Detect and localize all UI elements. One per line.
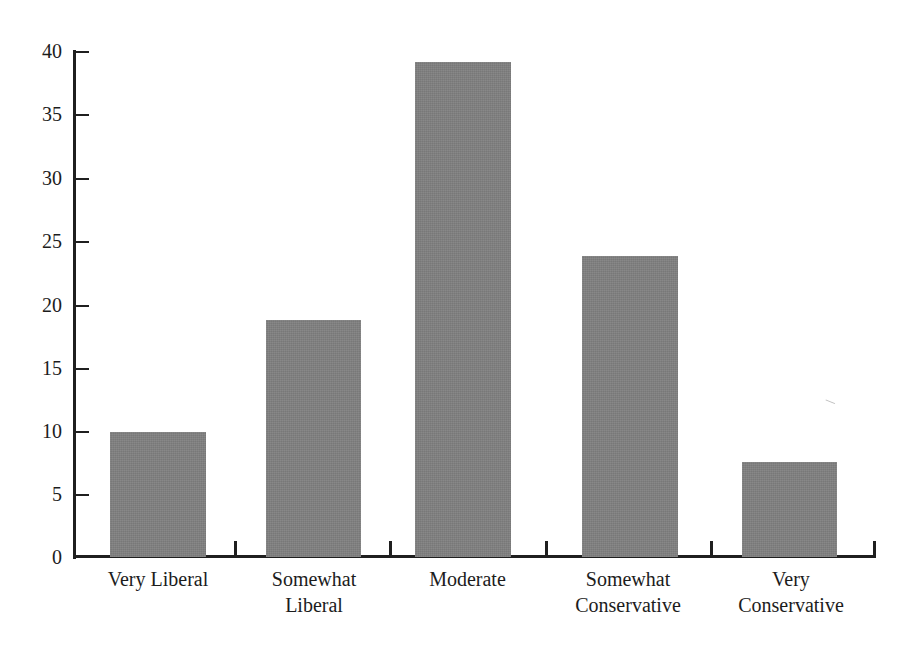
y-tick-label-30: 30 <box>16 168 62 188</box>
x-label-moderate: Moderate <box>389 566 546 592</box>
x-tick-end <box>873 541 876 556</box>
y-tick-25 <box>76 241 89 243</box>
x-label-very-conservative: Very Conservative <box>708 566 874 618</box>
y-tick-label-20: 20 <box>16 295 62 315</box>
y-tick-label-10: 10 <box>16 421 62 441</box>
x-label-line1: Somewhat <box>234 566 394 592</box>
x-label-line2: Conservative <box>708 592 874 618</box>
y-tick-label-15: 15 <box>16 358 62 378</box>
y-tick-5 <box>76 494 89 496</box>
bar-very-liberal <box>110 432 206 557</box>
bar-very-conservative <box>742 462 837 557</box>
x-label-line1: Moderate <box>389 566 546 592</box>
y-tick-label-5: 5 <box>16 484 62 504</box>
y-tick-40 <box>76 51 89 53</box>
y-tick-label-0: 0 <box>16 547 62 567</box>
bar-moderate <box>415 62 511 557</box>
x-label-somewhat-conservative: Somewhat Conservative <box>545 566 711 618</box>
bar-somewhat-conservative <box>582 256 678 557</box>
x-label-very-liberal: Very Liberal <box>78 566 238 592</box>
y-tick-label-40: 40 <box>16 41 62 61</box>
y-tick-35 <box>76 114 89 116</box>
x-label-line2: Liberal <box>234 592 394 618</box>
y-tick-10 <box>76 431 89 433</box>
y-tick-30 <box>76 178 89 180</box>
x-label-somewhat-liberal: Somewhat Liberal <box>234 566 394 618</box>
x-tick-3 <box>545 541 548 556</box>
scan-artifact-mark <box>823 399 835 410</box>
x-tick-4 <box>710 541 713 556</box>
bar-chart: 40 35 30 25 20 15 10 5 0 Very Liberal <box>0 0 916 662</box>
x-label-line2: Conservative <box>545 592 711 618</box>
x-label-line1: Very Liberal <box>78 566 238 592</box>
x-tick-1 <box>234 541 237 556</box>
bar-somewhat-liberal <box>266 320 361 557</box>
x-label-line1: Somewhat <box>545 566 711 592</box>
y-tick-20 <box>76 305 89 307</box>
x-label-line1: Very <box>708 566 874 592</box>
y-tick-label-35: 35 <box>16 104 62 124</box>
y-tick-label-25: 25 <box>16 231 62 251</box>
x-tick-2 <box>389 541 392 556</box>
y-tick-15 <box>76 368 89 370</box>
